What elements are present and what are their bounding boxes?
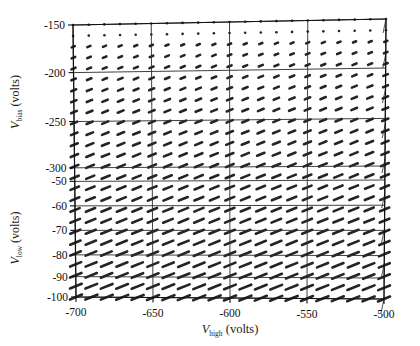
data-glyph [259,65,263,67]
data-glyph [212,66,216,68]
data-glyph [368,63,372,65]
data-glyph [243,65,247,67]
data-glyph [103,34,106,37]
axis-tick-label: -80 [52,249,68,261]
axis-tick-label: -70 [52,224,68,236]
data-glyph [103,56,107,57]
data-glyph [119,45,122,46]
data-glyph [118,56,122,57]
data-glyph [165,88,170,90]
data-glyph [103,78,107,80]
axis-tick-label: -50 [51,175,67,187]
data-glyph [352,63,356,65]
data-glyph [134,67,138,69]
data-glyph [274,65,278,67]
data-glyph [275,43,278,44]
data-glyph [274,87,279,89]
data-glyph [353,52,357,53]
data-glyph [103,46,106,47]
data-glyph [87,57,91,58]
data-glyph [259,54,263,55]
axis-tick-label: -600 [219,307,240,319]
data-glyph [275,54,279,55]
data-glyph [212,77,216,79]
plot-svg: -700-650-600-550-500-150-200-250-300-50-… [0,0,420,346]
axis-tick-label: -550 [296,308,317,320]
data-glyph [338,30,341,33]
data-glyph [196,77,200,79]
data-glyph [180,88,185,90]
data-glyph [337,42,340,43]
data-glyph [367,85,372,87]
data-glyph [258,87,263,89]
data-glyph [181,66,185,68]
data-glyph [337,75,341,77]
data-glyph [166,45,169,46]
data-glyph [352,86,357,88]
data-glyph [369,29,372,32]
axis-tick-label: -250 [45,116,66,128]
data-glyph [197,55,201,56]
data-glyph [259,76,263,78]
y-upper-title-unit-text: (volts) [8,75,22,106]
data-glyph [321,64,325,66]
axis-tick-label: -60 [52,200,68,212]
data-glyph [290,86,295,88]
data-glyph [181,77,185,79]
axis-tick-label: -90 [52,271,68,283]
data-glyph [118,67,122,69]
data-glyph [119,34,122,37]
data-glyph [274,76,278,78]
data-glyph [243,87,248,89]
data-glyph [196,66,200,68]
data-glyph [260,31,263,34]
axis-tick-label: -200 [44,67,65,79]
data-glyph [369,41,372,42]
data-glyph [87,78,91,80]
data-glyph [290,53,294,54]
data-glyph [243,76,247,78]
data-glyph [103,67,107,69]
axis-tick-label: -150 [44,19,65,31]
data-glyph [181,55,185,56]
data-glyph [196,88,201,90]
data-glyph [291,31,294,34]
data-glyph [134,45,137,46]
data-glyph [337,64,341,66]
data-glyph [212,44,215,45]
data-glyph [259,43,262,44]
data-glyph [165,55,169,56]
axis-tick-label: -100 [47,291,68,303]
data-glyph [275,31,278,34]
data-glyph [87,34,90,37]
data-glyph [321,86,326,88]
data-glyph [134,56,138,57]
data-glyph [197,44,200,45]
data-glyph [368,52,372,53]
data-glyph [352,75,356,77]
data-glyph [102,89,107,91]
axis-tick-label: -300 [45,162,66,174]
data-glyph [244,31,247,34]
data-glyph [181,44,184,45]
data-glyph [87,89,92,91]
data-glyph [197,32,200,35]
data-glyph [244,43,247,44]
figure-3d-mesh-plot: -700-650-600-550-500-150-200-250-300-50-… [0,0,420,346]
data-glyph [368,74,372,76]
x-axis-title-subscript: high [209,329,223,338]
data-glyph [212,87,217,89]
data-glyph [337,53,341,54]
data-glyph [243,54,247,55]
y-lower-title-unit-text: (volts) [8,212,22,243]
data-glyph [134,88,139,90]
data-glyph [353,29,356,32]
data-glyph [118,89,123,91]
data-glyph [290,75,294,77]
data-glyph [336,86,341,88]
data-glyph [165,66,169,68]
x-axis-title-unit-text: (volts) [226,322,259,336]
axis-tick-label: -700 [65,306,86,318]
data-glyph [181,33,184,36]
axis-tick-label: -500 [373,308,394,320]
